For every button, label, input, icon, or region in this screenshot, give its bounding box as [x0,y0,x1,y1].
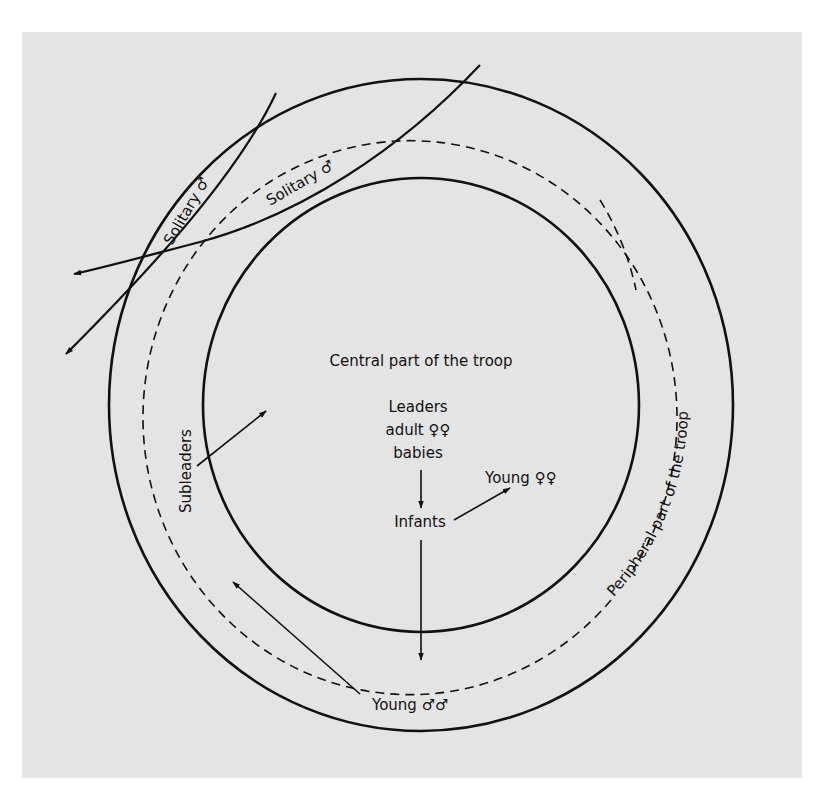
babies-label: babies [393,444,443,462]
young-females-label: Young ♀♀ [484,469,557,487]
solitary-male-path-2 [74,65,480,274]
subleaders-label: Subleaders [177,429,195,513]
infants-label: Infants [394,513,446,531]
young-males-label: Young ♂♂ [371,696,449,714]
leaders-label: Leaders [388,398,447,416]
arrow-to-young-females [454,488,510,520]
troop-structure-diagram: Solitary ♂ Solitary ♂ Central part of th… [0,0,837,807]
solitary-male-label-1: Solitary ♂ [160,174,213,248]
peripheral-dashed-boundary [143,141,677,695]
arrow-subleaders-to-center [197,411,266,466]
central-zone-label: Central part of the troop [329,352,512,370]
arrow-young-males-to-subleaders [233,582,360,694]
adult-females-label: adult ♀♀ [385,421,450,439]
